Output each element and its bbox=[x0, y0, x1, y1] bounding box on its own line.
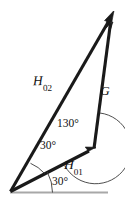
label-g: G bbox=[100, 84, 110, 98]
label-h02-letter: H bbox=[33, 73, 43, 88]
label-h01-subscript: 01 bbox=[74, 167, 83, 177]
label-angle-30-inner: 30° bbox=[40, 140, 56, 152]
label-h01-letter: H bbox=[64, 157, 74, 172]
label-angle-130: 130° bbox=[57, 118, 79, 130]
label-h01: H01 bbox=[64, 158, 83, 172]
label-h02-subscript: 02 bbox=[43, 83, 52, 93]
angle-arc-30-inner bbox=[31, 163, 45, 173]
vector-diagram-figure: H02 G H01 130° 30° 30° bbox=[0, 0, 125, 207]
label-angle-30-baseline: 30° bbox=[52, 176, 68, 188]
label-h02: H02 bbox=[33, 74, 52, 88]
